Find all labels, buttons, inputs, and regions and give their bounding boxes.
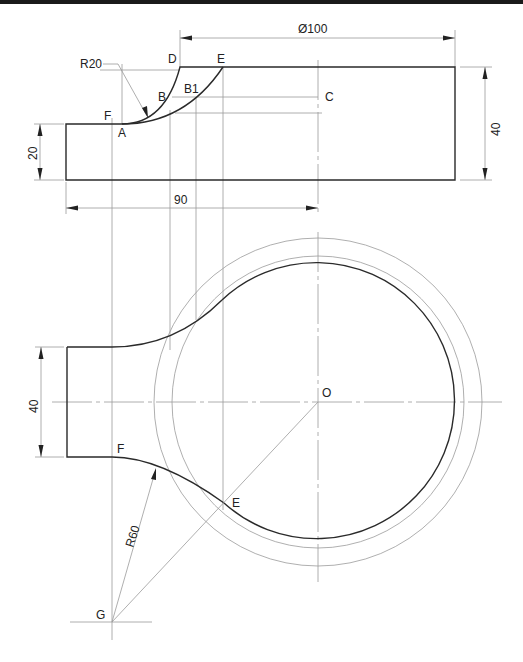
label-g: G bbox=[96, 608, 105, 622]
label-r20: R20 bbox=[80, 57, 102, 71]
neck-curve-top bbox=[67, 300, 222, 347]
label-o: O bbox=[322, 386, 331, 400]
label-e: E bbox=[217, 52, 225, 66]
arrow-right-icon bbox=[306, 206, 318, 211]
arrow-left-icon bbox=[180, 36, 192, 41]
arrow-up-icon bbox=[38, 124, 43, 136]
dimension-height-right: 40 bbox=[489, 122, 503, 136]
neck-outline-bottom bbox=[67, 347, 224, 503]
arrow-left-icon bbox=[66, 206, 78, 211]
arrow-leader-icon bbox=[151, 468, 156, 480]
arrow-down-icon bbox=[39, 445, 44, 457]
arrow-up-icon bbox=[483, 67, 488, 79]
label-a: A bbox=[118, 126, 126, 140]
dimension-width: 40 bbox=[27, 399, 41, 413]
arrow-up-icon bbox=[39, 347, 44, 359]
dimension-length: 90 bbox=[174, 193, 188, 207]
label-b: B bbox=[158, 90, 166, 104]
dimension-diameter: Ø100 bbox=[298, 22, 328, 36]
boss-circle-outline bbox=[222, 263, 454, 539]
dimension-height-left: 20 bbox=[26, 146, 40, 160]
arrow-leader-icon bbox=[142, 106, 148, 118]
arrow-right-icon bbox=[443, 36, 455, 41]
label-r60: R60 bbox=[123, 523, 143, 549]
label-e-top: E bbox=[232, 496, 240, 510]
label-f: F bbox=[104, 109, 111, 123]
arrow-down-icon bbox=[38, 168, 43, 180]
label-c: C bbox=[325, 90, 334, 104]
label-d: D bbox=[168, 52, 177, 66]
label-f-top: F bbox=[117, 442, 124, 456]
label-b1: B1 bbox=[184, 82, 199, 96]
technical-drawing: Ø100 40 20 90 R20 D E B B1 C F A bbox=[0, 0, 523, 662]
intersection-curve-ae bbox=[122, 67, 223, 124]
construction-line-go bbox=[112, 402, 318, 622]
top-view: 40 O F E G R60 bbox=[27, 232, 502, 640]
arrow-down-icon bbox=[483, 168, 488, 180]
